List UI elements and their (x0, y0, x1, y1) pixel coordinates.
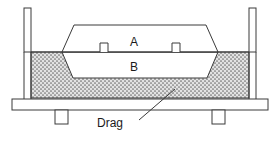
pattern-upper-half (62, 25, 218, 52)
left-notch (100, 43, 108, 52)
base-plate-body (12, 99, 268, 110)
casting-mold-diagram: A B Drag (0, 0, 280, 145)
right-leg-body (212, 110, 225, 124)
base-plate (12, 99, 268, 110)
right-notch (172, 43, 180, 52)
right-notch-outline (172, 43, 180, 52)
left-leg-body (55, 110, 68, 124)
right-post-body (249, 8, 256, 52)
pattern-lower-outline (62, 52, 218, 78)
pattern-lower-half (62, 52, 218, 78)
drag-label: Drag (97, 117, 123, 129)
left-post (24, 8, 31, 52)
pattern-upper-label: A (130, 36, 138, 48)
left-post-body (24, 8, 31, 52)
diagram-canvas (0, 0, 280, 145)
right-post (249, 8, 256, 52)
pattern-upper-outline (62, 25, 218, 52)
right-leg (212, 110, 225, 124)
pattern-lower-label: B (130, 61, 138, 73)
left-notch-outline (100, 43, 108, 52)
left-leg (55, 110, 68, 124)
